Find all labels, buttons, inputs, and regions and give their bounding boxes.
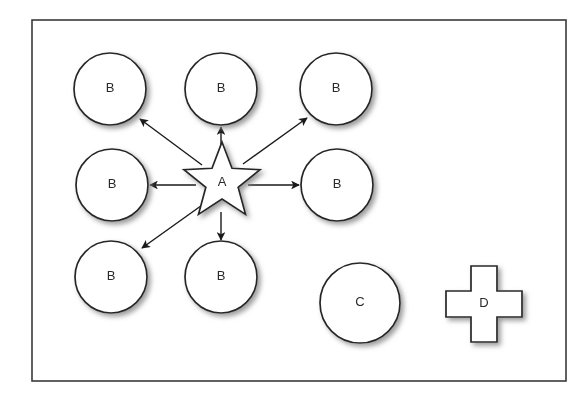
node-b-middle-right[interactable]: B <box>301 149 373 221</box>
node-b-top-right[interactable]: B <box>300 53 372 125</box>
node-b-middle-left[interactable]: B <box>76 149 148 221</box>
node-b-bottom-center[interactable]: B <box>185 241 257 313</box>
node-b-bottom-left[interactable]: B <box>75 241 147 313</box>
circle-shape <box>185 53 257 125</box>
circle-shape <box>75 241 147 313</box>
circle-shape <box>301 149 373 221</box>
circle-shape <box>320 263 400 343</box>
diagram-svg: BBBBBBBCAD <box>0 0 588 397</box>
circle-shape <box>74 53 146 125</box>
node-b-top-left[interactable]: B <box>74 53 146 125</box>
circle-shape <box>300 53 372 125</box>
circle-shape <box>185 241 257 313</box>
circle-shape <box>76 149 148 221</box>
node-b-top-center[interactable]: B <box>185 53 257 125</box>
node-c-circle[interactable]: C <box>320 263 400 343</box>
diagram-canvas: BBBBBBBCAD <box>0 0 588 397</box>
